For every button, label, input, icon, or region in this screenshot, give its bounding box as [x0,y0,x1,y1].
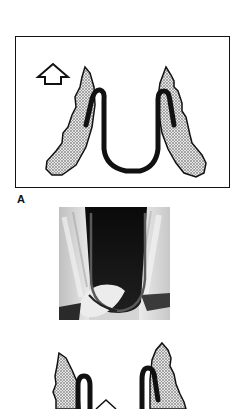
panel-a-diagram [15,36,230,188]
panel-b-diagram [0,340,244,409]
up-arrow-icon [38,64,68,84]
panel-a-illustration [16,37,229,187]
arrow-icon [96,400,116,409]
radiograph-photo [59,207,170,320]
panel-b-illustration [0,340,244,409]
left-wire [78,376,90,409]
panel-label-a: A [17,193,25,205]
right-crown-shape [158,67,206,177]
